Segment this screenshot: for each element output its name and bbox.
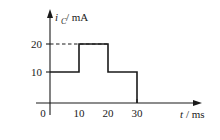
x-tick-label-30: 30 bbox=[132, 107, 144, 119]
step-waveform-trace bbox=[50, 44, 137, 103]
y-axis-title: i C / mA bbox=[55, 11, 88, 26]
x-axis-title: t / ms bbox=[180, 108, 205, 120]
y-tick-marks bbox=[46, 44, 50, 72]
y-axis-title-variable: i bbox=[55, 11, 58, 23]
origin-label: 0 bbox=[40, 107, 46, 119]
current-vs-time-step-chart: 10 20 0 10 20 30 i C / mA t / ms bbox=[0, 0, 220, 140]
figure-container: 10 20 0 10 20 30 i C / mA t / ms bbox=[0, 0, 220, 140]
x-axis bbox=[36, 100, 202, 106]
y-axis-title-unit: / mA bbox=[66, 11, 88, 23]
x-axis-arrow-icon bbox=[193, 100, 202, 106]
x-tick-label-20: 20 bbox=[103, 107, 115, 119]
x-tick-label-10: 10 bbox=[74, 107, 86, 119]
x-axis-title-variable: t bbox=[180, 108, 184, 120]
y-axis-arrow-icon bbox=[47, 9, 53, 18]
y-tick-label-20: 20 bbox=[31, 38, 43, 50]
y-tick-label-10: 10 bbox=[31, 66, 43, 78]
x-axis-title-unit: / ms bbox=[186, 108, 205, 120]
y-axis bbox=[47, 9, 53, 115]
